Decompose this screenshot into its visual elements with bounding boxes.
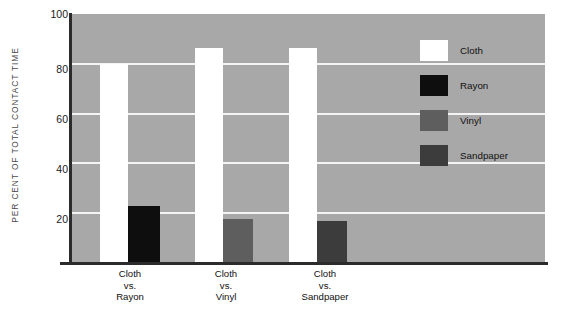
legend-swatch-cloth — [420, 40, 448, 61]
y-tick-label-80: 80 — [34, 64, 68, 75]
x-label-line-2: vs. — [267, 280, 383, 292]
y-tick-label-40: 40 — [34, 164, 68, 175]
legend-label-cloth: Cloth — [460, 45, 483, 56]
bar-chart-figure: PER CENT OF TOTAL CONTACT TIME 100 80 60… — [0, 0, 562, 314]
x-label-line-1: Cloth — [267, 268, 383, 280]
legend-swatch-vinyl — [420, 110, 448, 131]
y-axis-title: PER CENT OF TOTAL CONTACT TIME — [0, 0, 30, 270]
legend-swatch-sandpaper — [420, 145, 448, 166]
legend-label-vinyl: Vinyl — [460, 115, 481, 126]
y-tick-label-100: 100 — [34, 9, 68, 20]
bar-vinyl-group-1[interactable] — [223, 219, 253, 263]
y-axis-tick-labels: 100 80 60 40 20 — [30, 0, 68, 314]
x-label-line-3: Sandpaper — [267, 291, 383, 303]
x-label-line-2: vs. — [176, 280, 276, 292]
legend-label-sandpaper: Sandpaper — [460, 150, 508, 161]
x-label-line-2: vs. — [80, 280, 180, 292]
x-label-line-3: Vinyl — [176, 291, 276, 303]
y-axis-line — [69, 13, 72, 264]
legend-item-cloth[interactable]: Cloth — [420, 40, 483, 61]
x-label-line-1: Cloth — [176, 268, 276, 280]
x-label-line-1: Cloth — [80, 268, 180, 280]
bar-cloth-group-1[interactable] — [195, 48, 223, 263]
x-axis-line — [60, 262, 548, 265]
x-label-line-3: Rayon — [80, 291, 180, 303]
y-tick-label-20: 20 — [34, 214, 68, 225]
y-axis-title-text: PER CENT OF TOTAL CONTACT TIME — [10, 47, 20, 222]
x-group-label-cloth-vs-vinyl: Cloth vs. Vinyl — [176, 268, 276, 303]
bar-rayon-group-0[interactable] — [128, 206, 160, 263]
y-tick-label-60: 60 — [34, 114, 68, 125]
legend-item-vinyl[interactable]: Vinyl — [420, 110, 481, 131]
legend-item-sandpaper[interactable]: Sandpaper — [420, 145, 508, 166]
legend-item-rayon[interactable]: Rayon — [420, 75, 488, 96]
bar-cloth-group-0[interactable] — [100, 64, 128, 263]
bar-sandpaper-group-2[interactable] — [317, 221, 347, 263]
legend-label-rayon: Rayon — [460, 80, 488, 91]
bar-cloth-group-2[interactable] — [289, 48, 317, 263]
x-group-label-cloth-vs-rayon: Cloth vs. Rayon — [80, 268, 180, 303]
legend-swatch-rayon — [420, 75, 448, 96]
x-group-label-cloth-vs-sandpaper: Cloth vs. Sandpaper — [267, 268, 383, 303]
